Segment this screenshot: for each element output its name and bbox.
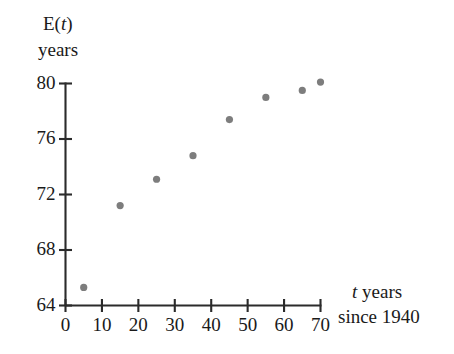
x-axis-tick-label-60: 60 — [269, 315, 299, 335]
y-axis-tick-label-76: 76 — [22, 128, 56, 148]
data-point — [153, 176, 160, 183]
scatter-plot-figure: 6468727680010203040506070E(t)yearst year… — [0, 0, 454, 354]
data-point — [299, 87, 306, 94]
y-axis-tick-label-80: 80 — [22, 73, 56, 93]
x-axis-title-line1: t years — [352, 282, 402, 302]
data-point — [226, 116, 233, 123]
x-axis-tick-label-0: 0 — [51, 315, 81, 335]
data-point — [317, 79, 324, 86]
y-axis-title-line2: years — [38, 40, 78, 60]
data-point — [117, 202, 124, 209]
x-axis-tick-label-50: 50 — [233, 315, 263, 335]
x-axis-title-line2: since 1940 — [338, 307, 420, 327]
x-axis-tick-label-30: 30 — [160, 315, 190, 335]
data-point — [80, 284, 87, 291]
y-axis-title-line1: E(t) — [43, 14, 73, 34]
y-axis-tick-label-68: 68 — [22, 239, 56, 259]
x-axis-tick-label-10: 10 — [87, 315, 117, 335]
x-axis-tick-label-70: 70 — [306, 315, 336, 335]
x-axis-tick-label-40: 40 — [196, 315, 226, 335]
y-axis-tick-label-72: 72 — [22, 184, 56, 204]
data-point — [262, 94, 269, 101]
data-point — [189, 152, 196, 159]
x-axis-tick-label-20: 20 — [123, 315, 153, 335]
y-axis-tick-label-64: 64 — [22, 295, 56, 315]
